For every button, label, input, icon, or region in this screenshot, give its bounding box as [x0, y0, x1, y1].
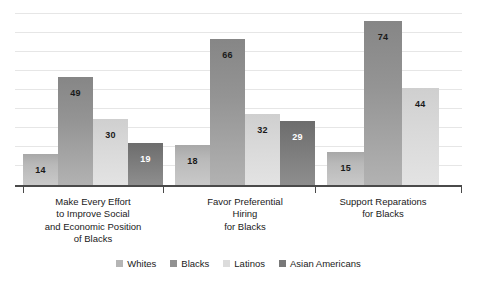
- category-label: Make Every Effortto Improve Socialand Ec…: [23, 196, 163, 246]
- legend-label: Whites: [127, 258, 156, 269]
- legend-item[interactable]: Blacks: [170, 258, 209, 269]
- bar-value-label: 32: [245, 125, 280, 135]
- legend-swatch-icon: [279, 260, 286, 267]
- category-label-line: Support Reparations: [327, 196, 439, 208]
- axis-tick: [163, 185, 164, 193]
- category-label-line: Make Every Effort: [23, 196, 163, 208]
- legend-label: Asian Americans: [290, 258, 361, 269]
- axis-tick: [315, 185, 316, 193]
- bar-value-label: 44: [402, 99, 439, 109]
- bar-value-label: 74: [364, 32, 401, 42]
- category-label-line: and Economic Position: [23, 221, 163, 233]
- legend-label: Latinos: [234, 258, 265, 269]
- category-label-line: for Blacks: [175, 221, 315, 233]
- category-label: Support Reparationsfor Blacks: [327, 196, 439, 221]
- bar-value-label: 49: [58, 88, 93, 98]
- grouped-bar-chart: 1449301918663229157444 Make Every Effort…: [0, 0, 477, 286]
- bar[interactable]: 44: [402, 88, 439, 185]
- x-axis-line: [15, 185, 462, 187]
- axis-tick: [461, 185, 462, 193]
- category-label-line: of Blacks: [23, 233, 163, 245]
- bar-series-container: 1449301918663229157444: [15, 8, 462, 185]
- category-labels: Make Every Effortto Improve Socialand Ec…: [15, 196, 462, 252]
- bar[interactable]: 14: [23, 154, 58, 185]
- category-label-line: Favor Preferential: [175, 196, 315, 208]
- bar-value-label: 18: [175, 156, 210, 166]
- category-label: Favor PreferentialHiringfor Blacks: [175, 196, 315, 233]
- bar-value-label: 29: [280, 132, 315, 142]
- bar-group: 18663229: [175, 8, 315, 185]
- legend-swatch-icon: [116, 260, 123, 267]
- legend-label: Blacks: [181, 258, 209, 269]
- legend-item[interactable]: Whites: [116, 258, 156, 269]
- bar[interactable]: 18: [175, 145, 210, 185]
- bar-value-label: 14: [23, 165, 58, 175]
- bar-value-label: 19: [128, 154, 163, 164]
- bar-group: 14493019: [23, 8, 163, 185]
- axis-tick: [23, 185, 24, 193]
- plot-area: 1449301918663229157444: [15, 8, 462, 185]
- legend-swatch-icon: [170, 260, 177, 267]
- bar[interactable]: 15: [327, 152, 364, 185]
- bar[interactable]: 29: [280, 121, 315, 185]
- bar[interactable]: 66: [210, 39, 245, 185]
- bar-group: 157444: [327, 8, 439, 185]
- bar[interactable]: 30: [93, 119, 128, 185]
- bar[interactable]: 19: [128, 143, 163, 185]
- bar[interactable]: 49: [58, 77, 93, 185]
- bar-value-label: 66: [210, 50, 245, 60]
- legend-item[interactable]: Latinos: [223, 258, 265, 269]
- x-axis: [15, 185, 462, 193]
- legend-item[interactable]: Asian Americans: [279, 258, 361, 269]
- category-label-line: to Improve Social: [23, 208, 163, 220]
- bar-value-label: 15: [327, 163, 364, 173]
- bar-value-label: 30: [93, 130, 128, 140]
- category-label-line: for Blacks: [327, 208, 439, 220]
- category-label-line: Hiring: [175, 208, 315, 220]
- chart-legend: WhitesBlacksLatinosAsian Americans: [0, 258, 477, 269]
- bar[interactable]: 74: [364, 21, 401, 185]
- legend-swatch-icon: [223, 260, 230, 267]
- bar[interactable]: 32: [245, 114, 280, 185]
